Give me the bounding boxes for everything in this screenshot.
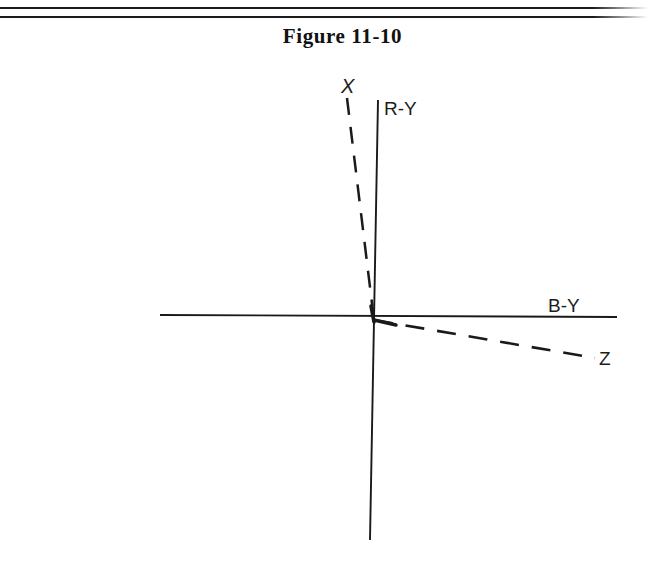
vector-axis-diagram	[0, 0, 663, 561]
axis-diagram-svg	[0, 0, 663, 561]
axis-line-z	[374, 320, 595, 358]
figure-page: Figure 11-10 X R-Y B-Y Z	[0, 0, 663, 561]
axis-label-b-y: B-Y	[548, 296, 580, 315]
axis-line-x	[347, 98, 374, 320]
axis-label-x: X	[341, 76, 354, 96]
axis-label-r-y: R-Y	[384, 99, 417, 118]
axis-label-z: Z	[599, 349, 611, 368]
